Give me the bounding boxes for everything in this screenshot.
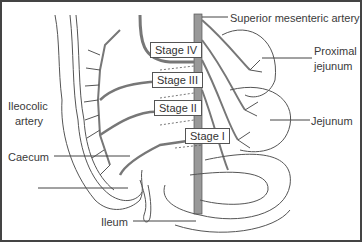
label-jejunum: Jejunum xyxy=(311,115,353,127)
mesenteric-artery-diagram: Superior mesenteric artery Proximal jeju… xyxy=(0,0,362,242)
stage-ii-box: Stage II xyxy=(154,100,202,116)
label-ileum: Ileum xyxy=(101,216,128,228)
label-ileocolic-line1: Ileocolic xyxy=(8,100,48,112)
stage-iv-box: Stage IV xyxy=(150,42,202,58)
anatomy-drawing xyxy=(0,0,362,242)
stage-i-box: Stage I xyxy=(185,128,230,144)
label-proximal-jejunum-line1: Proximal xyxy=(314,45,357,57)
stage-iii-box: Stage III xyxy=(152,72,203,88)
label-caecum: Caecum xyxy=(8,151,49,163)
label-ileocolic-line2: artery xyxy=(15,115,43,127)
label-superior-mesenteric-artery: Superior mesenteric artery xyxy=(230,12,360,24)
label-proximal-jejunum-line2: jejunum xyxy=(314,60,353,72)
